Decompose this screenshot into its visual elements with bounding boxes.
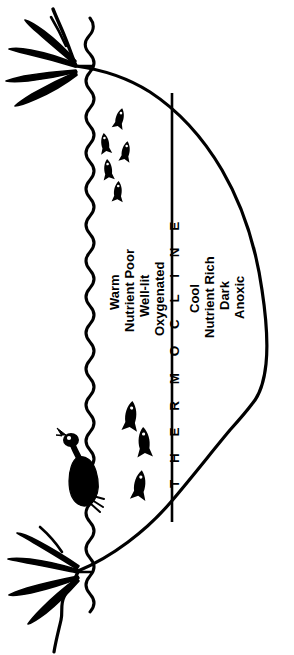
fish-icon	[112, 181, 125, 203]
fish-icon	[101, 158, 114, 180]
hypolimnion-label-nutrient-rich: Nutrient Rich	[203, 256, 216, 338]
fish-icon	[130, 469, 150, 501]
fish-group-epilimnion-upper	[98, 107, 133, 202]
cattail-plant-icon	[6, 9, 92, 106]
wavy-water-surface-line	[85, 18, 94, 612]
lake-cross-section-figure	[0, 0, 294, 655]
lake-stratification-diagram: T H E R M O C L I N E Warm Nutrient Poor…	[0, 0, 294, 655]
hypolimnion-label-dark: Dark	[218, 281, 231, 310]
thermocline-label: T H E R M O C L I N E	[168, 215, 182, 488]
hypolimnion-label-anoxic: Anoxic	[233, 276, 246, 319]
epilimnion-label-oxygenated: Oxygenated	[153, 262, 166, 336]
fish-icon	[98, 132, 112, 154]
fish-group-epilimnion-lower	[121, 400, 153, 501]
duck-icon	[56, 428, 104, 512]
epilimnion-label-warm: Warm	[108, 274, 121, 310]
fish-icon	[112, 107, 128, 130]
hypolimnion-label-cool: Cool	[188, 284, 201, 313]
fish-icon	[121, 400, 140, 431]
epilimnion-label-nutrient-poor: Nutrient Poor	[123, 249, 136, 332]
epilimnion-label-well-lit: Well-lit	[138, 275, 151, 317]
fish-icon	[135, 426, 153, 457]
fish-icon	[118, 140, 133, 163]
cattail-plant-icon	[8, 527, 92, 652]
